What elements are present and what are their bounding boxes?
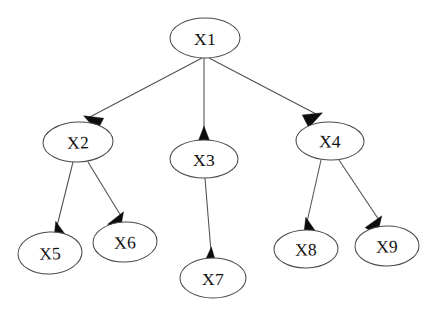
node-x7[interactable]: X7 xyxy=(180,258,246,298)
node-x1[interactable]: X1 xyxy=(170,18,240,58)
node-label: X5 xyxy=(39,243,62,264)
edge-x1-to-x2 xyxy=(84,58,202,131)
node-x5[interactable]: X5 xyxy=(17,230,83,275)
edge-line xyxy=(88,58,202,118)
edge-line xyxy=(88,162,121,216)
edge-x2-to-x5 xyxy=(54,162,73,241)
edge-x1-to-x4 xyxy=(209,58,322,128)
node-x3[interactable]: X3 xyxy=(170,140,238,178)
node-label: X6 xyxy=(114,232,137,253)
edge-line xyxy=(205,178,211,252)
node-label: X4 xyxy=(319,131,341,151)
node-x6[interactable]: X6 xyxy=(92,221,157,263)
node-x4[interactable]: X4 xyxy=(296,121,365,160)
node-x9[interactable]: X9 xyxy=(355,225,420,266)
edge-x2-to-x6 xyxy=(88,162,124,232)
edge-line xyxy=(209,58,318,115)
edge-line xyxy=(57,162,73,226)
directed-graph: X1X2X3X4X5X6X7X8X9 xyxy=(0,0,437,316)
edge-x4-to-x9 xyxy=(339,160,382,236)
node-label: X1 xyxy=(194,29,216,49)
edge-x4-to-x8 xyxy=(303,160,321,237)
node-label: X2 xyxy=(67,132,89,153)
edge-x3-to-x7 xyxy=(203,178,217,266)
node-layer: X1X2X3X4X5X6X7X8X9 xyxy=(17,18,419,298)
node-label: X9 xyxy=(376,236,398,256)
node-label: X7 xyxy=(202,269,224,289)
diagram-canvas: X1X2X3X4X5X6X7X8X9 xyxy=(0,0,437,316)
edge-line xyxy=(307,160,321,222)
node-x8[interactable]: X8 xyxy=(274,229,339,268)
edge-line xyxy=(339,160,379,220)
node-label: X8 xyxy=(295,239,317,259)
edge-x1-to-x3 xyxy=(197,58,211,145)
node-x2[interactable]: X2 xyxy=(42,121,113,163)
node-label: X3 xyxy=(193,150,215,170)
